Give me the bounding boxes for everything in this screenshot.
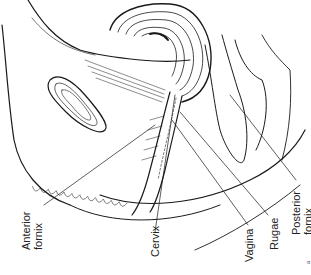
label-line: fornix (302, 191, 311, 235)
label-line: Vagina (243, 229, 255, 262)
label-line: Anterior (20, 211, 32, 250)
figure-corner-mark: a (305, 261, 311, 264)
leader-lines (44, 95, 296, 232)
label-posterior-fornix: Posterior fornix (290, 191, 311, 235)
label-line: Cervix (149, 226, 161, 257)
label-line: Posterior (290, 191, 302, 235)
uterus (110, 4, 211, 102)
label-vagina: Vagina (243, 229, 255, 262)
label-anterior-fornix: Anterior fornix (20, 211, 44, 250)
label-line: Rugae (268, 218, 280, 250)
label-cervix: Cervix (149, 226, 161, 257)
bladder (48, 77, 106, 132)
label-rugae: Rugae (268, 218, 280, 250)
body-contour (2, 25, 70, 205)
label-line: fornix (32, 211, 44, 250)
